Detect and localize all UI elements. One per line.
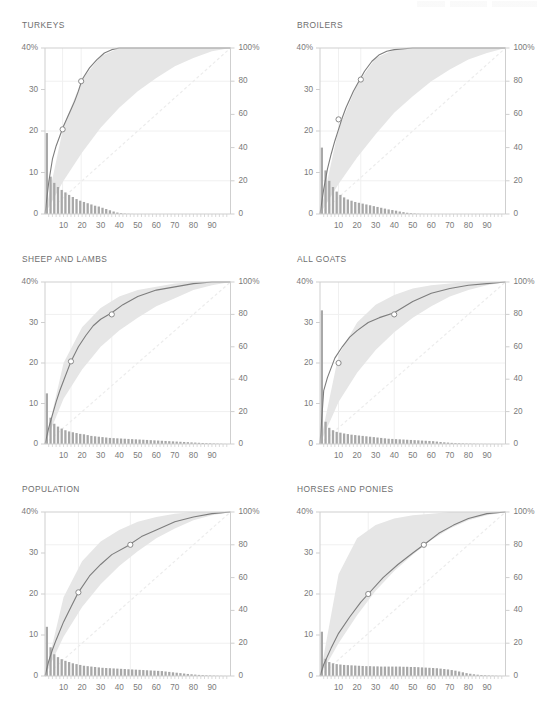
percentile-marker [366,591,371,596]
histogram-bar [365,204,367,214]
chart-panel: ALL GOATS010203040%020406080100%10203040… [275,248,551,480]
left-axis-label: 0 [33,439,38,448]
histogram-bar [109,668,111,676]
right-axis-label: 20 [239,638,248,647]
percentile-marker [60,127,65,132]
histogram-bar [68,662,70,676]
histogram-bar [358,435,360,444]
histogram-bar [387,667,389,676]
histogram-bar [68,195,70,214]
histogram-bar [350,435,352,444]
histogram-bar [83,666,85,676]
histogram-bar [339,433,341,444]
histogram-bar [90,204,92,214]
right-axis-label: 0 [239,439,244,448]
left-axis-label: 40% [22,43,38,52]
histogram-bar [380,438,382,444]
left-axis-label: 30 [304,548,313,557]
right-axis-label: 0 [514,439,519,448]
histogram-bar [362,666,364,676]
histogram-bar [436,668,438,676]
left-axis-label: 20 [304,358,313,367]
right-axis-label: 0 [239,209,244,218]
histogram-bar [421,441,423,444]
percentile-marker [79,79,84,84]
histogram-bar [376,666,378,676]
histogram-bar [328,428,330,444]
left-axis-label: 30 [29,85,38,94]
histogram-bar [64,661,66,676]
right-axis-label: 60 [239,573,248,582]
histogram-bar [112,668,114,676]
histogram-bar [347,199,349,214]
right-axis-label: 80 [239,309,248,318]
percentile-marker [358,77,363,82]
left-axis-label: 30 [304,85,313,94]
histogram-bar [384,209,386,214]
histogram-bar [417,667,419,676]
histogram-bar [172,672,174,676]
histogram-bar [387,439,389,444]
histogram-bar [98,207,100,214]
histogram-bar [365,436,367,444]
left-axis-label: 30 [29,318,38,327]
right-axis-label: 40 [514,605,523,614]
histogram-bar [328,662,330,676]
histogram-bar [101,437,103,444]
right-axis-label: 60 [514,109,523,118]
histogram-bar [131,669,133,676]
histogram-bar [157,441,159,444]
left-axis-label: 0 [308,439,313,448]
percentile-marker [128,542,133,547]
histogram-bar [413,440,415,444]
histogram-bar [109,210,111,214]
left-axis-label: 30 [304,318,313,327]
left-axis-label: 10 [304,168,313,177]
histogram-bar [350,201,352,214]
histogram-bar [161,671,163,676]
histogram-bar [53,654,55,676]
right-axis-label: 0 [514,671,519,680]
left-axis-label: 10 [29,630,38,639]
histogram-bar [83,202,85,214]
histogram-bar [451,670,453,676]
percentile-marker [336,117,341,122]
histogram-bar [406,440,408,444]
histogram-bar [57,187,59,214]
right-axis-label: 80 [239,540,248,549]
histogram-bar [458,671,460,676]
chart-panel: SHEEP AND LAMBS010203040%020406080100%10… [0,248,276,480]
right-axis-label: 40 [239,605,248,614]
histogram-bar [354,435,356,444]
histogram-bar [83,434,85,444]
histogram-bar [142,440,144,444]
histogram-bar [428,668,430,676]
histogram-bar [350,665,352,676]
histogram-bar [61,659,63,676]
chart-panel: BROILERS010203040%020406080100%102030405… [275,14,551,250]
x-axis-label: 90 [200,683,224,692]
left-axis-label: 10 [29,168,38,177]
histogram-bar [332,187,334,214]
histogram-bar [447,669,449,676]
histogram-bar [343,665,345,676]
histogram-bar [153,671,155,676]
histogram-bar [57,657,59,676]
x-axis-label: 90 [200,451,224,460]
histogram-bar [402,667,404,676]
left-axis-label: 20 [29,358,38,367]
histogram-bar [105,209,107,214]
histogram-bar [421,667,423,676]
histogram-bar [443,669,445,676]
histogram-bar [64,192,66,214]
panel-title: SHEEP AND LAMBS [22,254,107,264]
chart-panel: TURKEYS010203040%020406080100%1020304050… [0,14,276,250]
histogram-bar [343,433,345,444]
histogram-bar [72,432,74,444]
right-axis-label: 80 [514,309,523,318]
left-axis-label: 20 [29,126,38,135]
histogram-bar [150,440,152,444]
histogram-bar [109,438,111,444]
histogram-bar [417,440,419,444]
right-axis-label: 40 [239,374,248,383]
